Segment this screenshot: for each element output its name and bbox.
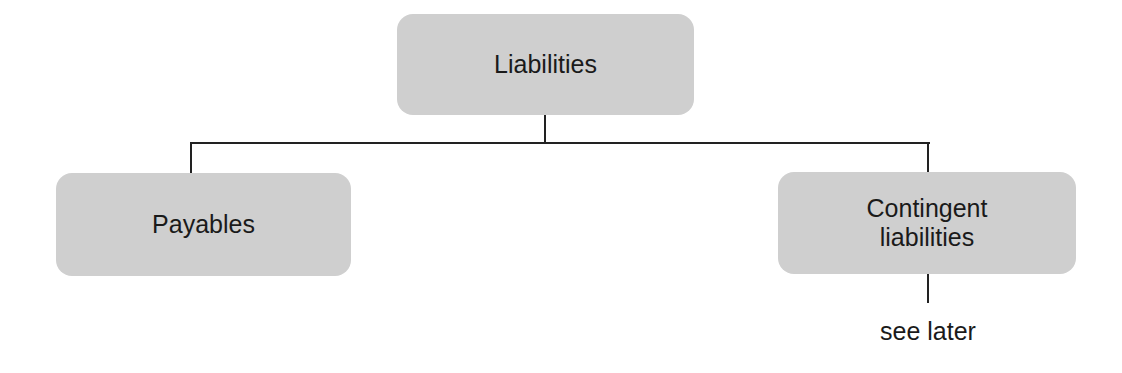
node-contingent-liabilities: Contingent liabilities [778, 172, 1076, 274]
node-contingent-liabilities-label: Contingent liabilities [848, 194, 1006, 252]
connector-horizontal [190, 142, 930, 144]
connector-payables [190, 142, 192, 173]
node-liabilities: Liabilities [397, 14, 694, 115]
connector-root-down [544, 115, 546, 143]
note-see-later: see later [848, 317, 1008, 346]
connector-contingent-note [927, 274, 929, 303]
node-payables-label: Payables [152, 210, 255, 239]
connector-contingent [927, 142, 929, 172]
node-payables: Payables [56, 173, 351, 276]
node-liabilities-label: Liabilities [494, 50, 597, 79]
